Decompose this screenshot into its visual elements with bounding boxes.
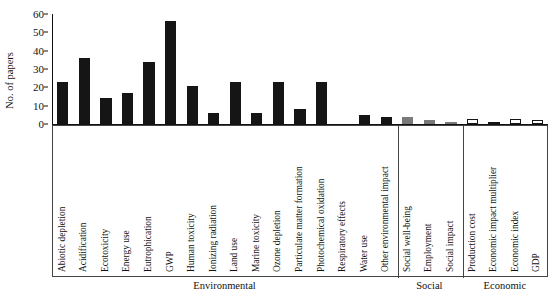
y-tick-mark [44, 87, 48, 88]
bar [187, 86, 198, 125]
group-label-economic: Economic [462, 277, 548, 295]
y-tick-label-40: 40 [33, 45, 44, 56]
bar [316, 82, 327, 124]
x-axis-category-label: Ozone depletion [270, 122, 284, 272]
x-axis-category-label: Economic index [508, 122, 522, 272]
x-axis-category-label: Employment [421, 122, 435, 272]
y-tick-label-20: 20 [33, 82, 44, 93]
bar [122, 93, 133, 124]
bar [79, 58, 90, 124]
bar [57, 82, 68, 124]
y-tick-mark [44, 124, 48, 125]
plot-area [52, 14, 548, 124]
x-axis-category-label: Land use [227, 122, 241, 272]
x-axis-category-label: Acidification [76, 122, 90, 272]
group-label-row: EnvironmentalSocialEconomic [52, 277, 548, 297]
bar [165, 21, 176, 124]
group-label-social: Social [397, 277, 462, 295]
y-axis-line [52, 14, 53, 124]
y-axis-ticks: 0102030405060 [16, 14, 48, 124]
x-axis-category-label: Social well-being [400, 122, 414, 272]
x-axis-category-label: Social impact [443, 122, 457, 272]
x-axis-category-label: Ionizing radiation [206, 122, 220, 272]
x-axis-category-label: Water use [357, 122, 371, 272]
x-axis-category-label: Marine toxicity [249, 122, 263, 272]
category-label-box: Abiotic depletionAcidificationEcotoxicit… [52, 125, 548, 277]
x-axis-category-label: Eutrophication [141, 122, 155, 272]
bar-chart: No. of papers 0102030405060 Abiotic depl… [0, 0, 556, 305]
bar [143, 62, 154, 124]
x-axis-category-label: Ecotoxicity [98, 122, 112, 272]
x-axis-category-label: Abiotic depletion [55, 122, 69, 272]
bar [100, 98, 111, 124]
x-axis-category-label: Economic impact multiplier [486, 122, 500, 272]
group-divider [463, 126, 464, 278]
group-divider [398, 126, 399, 278]
x-axis-category-label: Other environmental impact [378, 122, 392, 272]
y-tick-label-50: 50 [33, 27, 44, 38]
bar [230, 82, 241, 124]
y-tick-label-10: 10 [33, 100, 44, 111]
y-tick-label-60: 60 [33, 9, 44, 20]
bar [273, 82, 284, 124]
group-label-environmental: Environmental [52, 277, 397, 295]
y-tick-mark [44, 32, 48, 33]
y-axis-title: No. of papers [2, 40, 16, 120]
y-tick-label-30: 30 [33, 64, 44, 75]
y-tick-mark [44, 105, 48, 106]
y-tick-mark [44, 50, 48, 51]
x-axis-category-label: Particulate matter formation [292, 122, 306, 272]
x-axis-category-label: Human toxicity [184, 122, 198, 272]
y-tick-mark [44, 69, 48, 70]
y-tick-mark [44, 14, 48, 15]
x-axis-category-label: Photochemical oxidation [314, 122, 328, 272]
x-axis-category-label: Production cost [465, 122, 479, 272]
x-axis-category-label: Respiratory effects [335, 122, 349, 272]
x-axis-category-label: GWP [163, 122, 177, 272]
x-axis-category-label: Energy use [119, 122, 133, 272]
x-axis-category-label: GDP [529, 122, 543, 272]
